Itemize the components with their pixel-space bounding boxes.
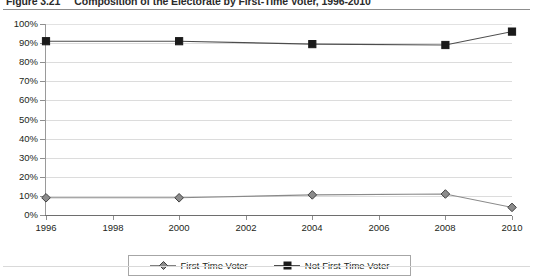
bottom-divider (3, 266, 530, 267)
data-point-square (508, 28, 515, 35)
data-point-square (42, 38, 49, 45)
data-point-diamond (508, 203, 517, 212)
data-point-diamond (175, 194, 184, 203)
data-point-square (309, 41, 316, 48)
chart-container: 0%10%20%30%40%50%60%70%80%90%100% 199619… (0, 14, 533, 264)
series-layer (0, 14, 533, 264)
data-point-diamond (441, 190, 450, 199)
figure-title: Figure 3.21Composition of the Electorate… (6, 0, 371, 7)
figure-caption: Composition of the Electorate by First-T… (74, 0, 370, 7)
data-point-square (442, 41, 449, 48)
data-point-diamond (42, 194, 51, 203)
title-divider (3, 9, 530, 10)
data-point-square (176, 38, 183, 45)
data-point-diamond (308, 191, 317, 200)
figure-number: Figure 3.21 (6, 0, 60, 7)
series-line (46, 194, 512, 207)
